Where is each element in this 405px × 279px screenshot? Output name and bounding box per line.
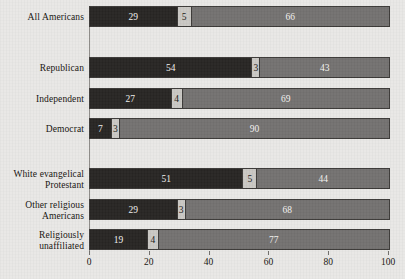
bar-segment-1: 19: [90, 230, 147, 249]
bar-segment-3: 44: [257, 169, 389, 188]
chart-row: Democrat7390: [0, 118, 405, 140]
category-label: Other religious Americans: [0, 200, 84, 221]
bar-segment-2: 3: [251, 58, 260, 77]
bar-segment-3: 68: [186, 200, 389, 219]
bar-segment-2: 4: [147, 230, 159, 249]
category-label: Religiously unaffiliated: [0, 230, 84, 251]
category-label: All Americans: [0, 12, 84, 23]
chart-row: All Americans29566: [0, 6, 405, 28]
stacked-bar: 19477: [89, 229, 390, 250]
bar-segment-1: 27: [90, 89, 171, 108]
x-axis-tick-label: 80: [323, 257, 333, 267]
stacked-bar: 29566: [89, 6, 390, 27]
category-label: Democrat: [0, 124, 84, 135]
stacked-bar: 7390: [89, 118, 390, 139]
chart-row: Independent27469: [0, 88, 405, 110]
bar-segment-1: 29: [90, 7, 177, 26]
x-axis-tick-label: 20: [144, 257, 154, 267]
chart-row: Religiously unaffiliated19477: [0, 229, 405, 251]
category-label: Independent: [0, 94, 84, 105]
stacked-bar: 29368: [89, 199, 390, 220]
x-axis-tick: [388, 251, 389, 255]
bar-segment-3: 90: [120, 119, 389, 138]
x-axis-tick-label: 60: [264, 257, 274, 267]
bar-segment-2: 3: [177, 200, 186, 219]
stacked-bar: 51544: [89, 168, 390, 189]
bar-segment-1: 7: [90, 119, 111, 138]
stacked-bar: 54343: [89, 57, 390, 78]
chart-row: Other religious Americans29368: [0, 199, 405, 221]
category-label: White evangelical Protestant: [0, 169, 84, 190]
x-axis-tick: [149, 251, 150, 255]
bar-segment-3: 66: [192, 7, 389, 26]
bar-segment-3: 77: [159, 230, 389, 249]
bar-segment-1: 51: [90, 169, 242, 188]
bar-segment-2: 5: [177, 7, 192, 26]
x-axis-tick-label: 0: [87, 257, 92, 267]
chart-row: Republican54343: [0, 57, 405, 79]
x-axis-tick: [209, 251, 210, 255]
bar-segment-3: 43: [260, 58, 389, 77]
x-axis-tick-label: 100: [381, 257, 395, 267]
x-axis-tick-label: 40: [204, 257, 214, 267]
stacked-bar: 27469: [89, 88, 390, 109]
stacked-bar-chart: All Americans29566Republican54343Indepen…: [0, 0, 405, 279]
bar-segment-2: 3: [111, 119, 120, 138]
category-label: Republican: [0, 63, 84, 74]
x-axis-tick: [268, 251, 269, 255]
bar-segment-1: 54: [90, 58, 251, 77]
bar-segment-3: 69: [183, 89, 389, 108]
bar-segment-2: 4: [171, 89, 183, 108]
x-axis-tick: [328, 251, 329, 255]
bar-segment-2: 5: [242, 169, 257, 188]
bar-segment-1: 29: [90, 200, 177, 219]
x-axis-tick: [89, 251, 90, 255]
chart-row: White evangelical Protestant51544: [0, 168, 405, 190]
